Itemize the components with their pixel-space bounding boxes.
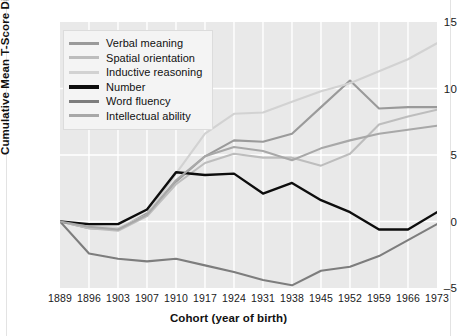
x-axis-tick-label: 1907	[135, 292, 159, 304]
legend-item-label: Spatial orientation	[106, 52, 195, 64]
series-line	[60, 172, 437, 229]
legend-item: Inductive reasoning	[69, 65, 202, 80]
legend-item: Verbal meaning	[69, 36, 202, 51]
x-axis-tick-label: 1966	[396, 292, 420, 304]
chart-figure: Cumulative Mean T-Score Differences 1510…	[0, 0, 457, 336]
legend-color-swatch	[69, 85, 99, 89]
legend-item: Spatial orientation	[69, 51, 202, 66]
legend-color-swatch	[69, 56, 99, 59]
legend-color-swatch	[69, 42, 99, 45]
legend-item: Word fluency	[69, 94, 202, 109]
legend-item: Intellectual ability	[69, 109, 202, 124]
x-axis-tick-label: 1917	[193, 292, 217, 304]
legend-item-label: Intellectual ability	[106, 110, 191, 122]
x-axis-tick-label: 1889	[48, 292, 72, 304]
x-axis-title: Cohort (year of birth)	[0, 312, 457, 324]
x-axis-tick-label: 1973	[425, 292, 449, 304]
y-axis-title: Cumulative Mean T-Score Differences	[0, 0, 11, 155]
x-axis-tick-label: 1952	[338, 292, 362, 304]
legend-item-label: Word fluency	[106, 95, 171, 107]
legend-item-label: Number	[106, 81, 145, 93]
x-axis-tick-label: 1903	[106, 292, 130, 304]
x-axis-tick-label: 1931	[251, 292, 275, 304]
legend-color-swatch	[69, 100, 99, 103]
x-axis-tick-label: 1924	[222, 292, 246, 304]
x-axis-tick-label: 1896	[77, 292, 101, 304]
legend-color-swatch	[69, 71, 99, 74]
x-axis-tick-label: 1945	[309, 292, 333, 304]
x-axis-tick-label: 1959	[367, 292, 391, 304]
legend-item: Number	[69, 80, 202, 95]
x-axis-tick-label: 1938	[280, 292, 304, 304]
x-axis-tick-label: 1910	[164, 292, 188, 304]
chart-legend: Verbal meaningSpatial orientationInducti…	[63, 30, 213, 130]
legend-color-swatch	[69, 114, 99, 117]
legend-item-label: Inductive reasoning	[106, 66, 202, 78]
legend-item-label: Verbal meaning	[106, 37, 183, 49]
